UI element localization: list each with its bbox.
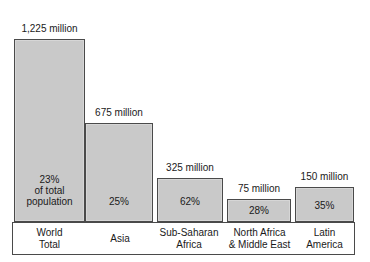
bar-value-label-sub-saharan-africa: 325 million xyxy=(166,162,214,174)
bar-pct-latin-america: 35% xyxy=(296,200,353,211)
bar-group-latin-america: 150 million 35% xyxy=(295,172,354,222)
category-label-north-africa-middle-east-line2: & Middle East xyxy=(225,239,294,251)
category-label-latin-america-line2: America xyxy=(296,239,353,251)
bar-pct-world-total-line3: population xyxy=(15,196,84,207)
bar-rect-sub-saharan-africa[interactable]: 62% xyxy=(157,178,223,222)
category-label-sub-saharan-africa-line2: Africa xyxy=(155,239,223,251)
bar-rect-north-africa-middle-east[interactable]: 28% xyxy=(227,199,291,222)
category-label-north-africa-middle-east: North Africa & Middle East xyxy=(224,227,295,250)
bar-value-label-north-africa-middle-east: 75 million xyxy=(238,183,280,195)
category-label-latin-america: Latin America xyxy=(295,227,354,250)
category-label-world-total: World Total xyxy=(13,227,86,250)
bar-value-label-latin-america: 150 million xyxy=(301,171,349,183)
bar-group-sub-saharan-africa: 325 million 62% xyxy=(157,163,223,222)
bar-rect-world-total[interactable]: 23% of total population xyxy=(14,39,85,222)
category-label-north-africa-middle-east-line1: North Africa xyxy=(225,227,294,239)
bar-pct-world-total-line2: of total xyxy=(15,185,84,196)
bar-value-label-world-total: 1,225 million xyxy=(21,23,77,35)
bar-pct-asia: 25% xyxy=(86,196,152,207)
bar-group-north-africa-middle-east: 75 million 28% xyxy=(227,184,291,222)
category-label-sub-saharan-africa-line1: Sub-Saharan xyxy=(155,227,223,239)
bar-group-asia: 675 million 25% xyxy=(85,108,153,222)
bar-rect-latin-america[interactable]: 35% xyxy=(295,187,354,222)
bar-pct-sub-saharan-africa: 62% xyxy=(158,196,222,207)
bar-rect-asia[interactable]: 25% xyxy=(85,123,153,222)
category-axis: World Total Asia Sub-Saharan Africa Nort… xyxy=(12,222,355,255)
category-label-world-total-line2: Total xyxy=(14,239,85,251)
category-label-sub-saharan-africa: Sub-Saharan Africa xyxy=(154,227,224,250)
category-label-asia-line1: Asia xyxy=(87,233,153,245)
category-label-latin-america-line1: Latin xyxy=(296,227,353,239)
category-label-world-total-line1: World xyxy=(14,227,85,239)
bar-group-world-total: 1,225 million 23% of total population xyxy=(14,24,85,222)
plot-area: 1,225 million 23% of total population 67… xyxy=(0,0,370,222)
bar-pct-world-total-line1: 23% xyxy=(15,174,84,185)
bar-value-label-asia: 675 million xyxy=(95,107,143,119)
category-label-asia: Asia xyxy=(86,233,154,245)
bar-pct-north-africa-middle-east: 28% xyxy=(228,205,290,216)
bar-chart: 1,225 million 23% of total population 67… xyxy=(0,0,370,262)
